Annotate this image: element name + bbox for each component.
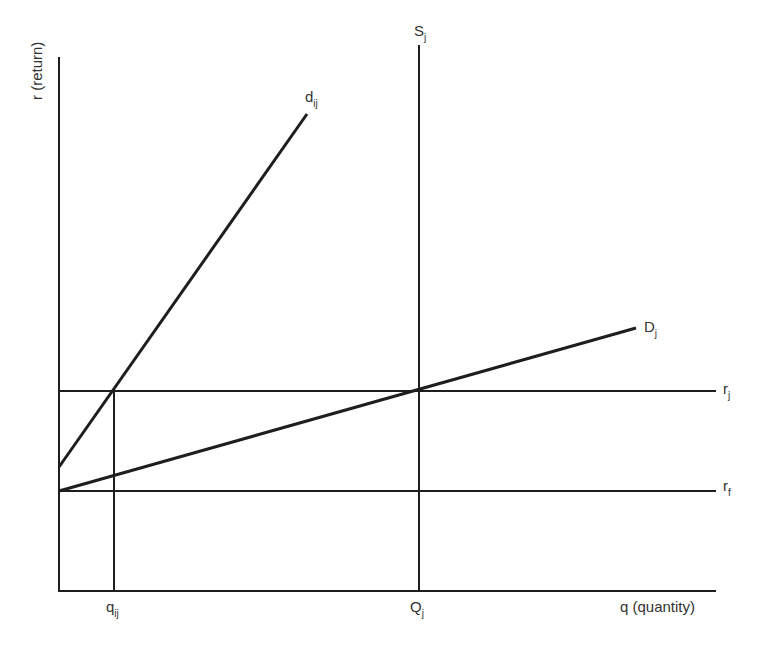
rj-label: rj [723, 380, 730, 401]
qj-label-sub: j [422, 608, 424, 619]
sj-label: Sj [414, 22, 426, 43]
dj-label-sub: j [655, 328, 657, 339]
qj-tick-label: Qj [410, 598, 424, 619]
y-axis-label: r (return) [28, 42, 45, 100]
dj-label: Dj [644, 318, 657, 339]
dj-label-main: D [644, 318, 655, 335]
demand-line-dj [59, 328, 636, 491]
rf-label-sub: f [728, 487, 731, 498]
rf-label: rf [723, 477, 731, 498]
sj-label-main: S [414, 22, 424, 39]
dij-label-sub: ij [313, 98, 317, 109]
qj-label-main: Q [410, 598, 422, 615]
x-axis-label: q (quantity) [620, 598, 695, 615]
rj-label-sub: j [728, 390, 730, 401]
demand-line-dij [59, 114, 307, 467]
sj-label-sub: j [424, 32, 426, 43]
dij-label: dij [305, 88, 318, 109]
qij-tick-label: qij [106, 598, 119, 619]
qij-label-sub: ij [114, 608, 118, 619]
